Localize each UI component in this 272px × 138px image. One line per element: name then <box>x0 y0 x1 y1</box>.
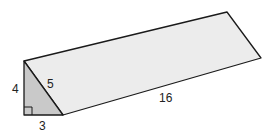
label-length: 16 <box>159 91 173 105</box>
triangular-prism-diagram: 4 5 3 16 <box>0 0 272 138</box>
label-base: 3 <box>39 119 46 133</box>
prism-slanted-face <box>24 12 261 115</box>
label-height: 4 <box>12 82 19 96</box>
label-hypotenuse: 5 <box>47 77 54 91</box>
